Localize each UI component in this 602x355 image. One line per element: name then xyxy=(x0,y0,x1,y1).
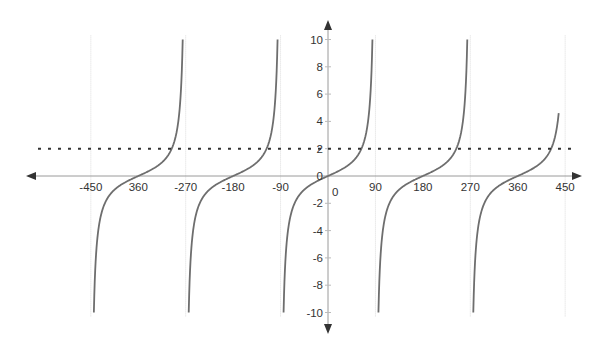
y-axis-up-arrow xyxy=(324,20,332,30)
y-axis-down-arrow xyxy=(324,324,332,334)
y-tick-label--4: -4 xyxy=(313,225,324,237)
x-tick-label--180: -180 xyxy=(222,181,245,193)
y-tick-label-6: 6 xyxy=(317,88,323,100)
y-tick-label--2: -2 xyxy=(313,197,323,209)
y-tick-label-8: 8 xyxy=(317,61,323,73)
x-axis-left-arrow xyxy=(26,172,36,180)
x-tick-label-90: 90 xyxy=(369,181,382,193)
x-tick-label--360: 360 xyxy=(129,181,148,193)
tan-branch-360 xyxy=(473,113,558,312)
axes xyxy=(26,20,582,334)
y-tick-label--10: -10 xyxy=(306,307,323,319)
origin-label: 0 xyxy=(332,186,338,198)
x-tick-label-180: 180 xyxy=(413,181,432,193)
y-tick-label--6: -6 xyxy=(313,252,323,264)
x-tick-label-360: 360 xyxy=(508,181,527,193)
y-tick-label--8: -8 xyxy=(313,279,323,291)
tangent-chart: -450360-270-180-90901802703604501086420-… xyxy=(0,0,602,355)
y-tick-label-4: 4 xyxy=(317,115,324,127)
x-tick-label--450: -450 xyxy=(79,181,102,193)
x-tick-label-450: 450 xyxy=(556,181,575,193)
y-tick-label-0: 0 xyxy=(317,170,323,182)
x-axis-right-arrow xyxy=(572,172,582,180)
x-tick-label-270: 270 xyxy=(461,181,480,193)
x-tick-label--90: -90 xyxy=(272,181,289,193)
y-tick-label-2: 2 xyxy=(317,143,323,155)
x-tick-label--270: -270 xyxy=(174,181,197,193)
y-tick-label-10: 10 xyxy=(310,34,323,46)
